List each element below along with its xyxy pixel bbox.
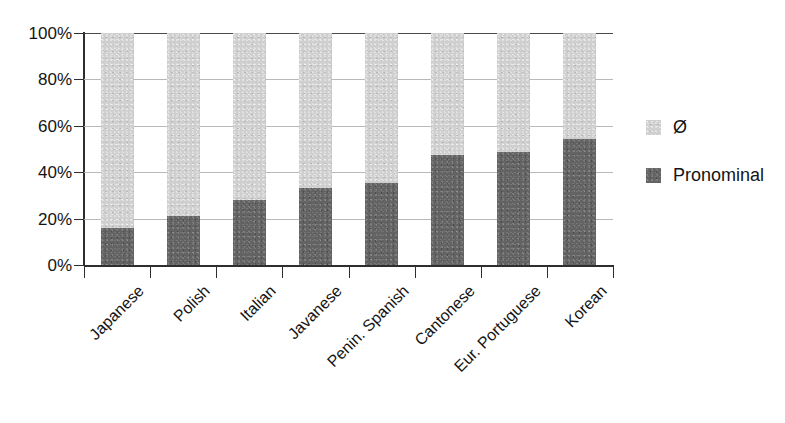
x-axis-category-label[interactable]: Korean [561,282,610,331]
bar-group[interactable] [431,33,464,265]
y-axis-tick-mark [74,79,83,80]
legend-item[interactable]: Pronominal [646,164,781,186]
bar-group[interactable] [365,33,398,265]
y-axis-tick-mark [74,126,83,127]
y-axis-tick-label: 40% [38,164,72,181]
gridline [84,126,613,127]
bar-segment-pronominal[interactable] [497,152,530,265]
stacked-bar-chart: 0%20%40%60%80%100% JapanesePolishItalian… [0,0,785,423]
bar-segment-zero[interactable] [563,33,596,139]
x-axis-category-label[interactable]: Italian [237,282,280,325]
x-axis-line [84,265,614,267]
bar-segment-pronominal[interactable] [299,188,332,265]
y-axis-tick-mark [74,265,83,266]
gridline [84,33,613,34]
plot-area [84,33,613,265]
bar-segment-zero[interactable] [431,33,464,155]
y-axis-tick-label: 0% [47,257,72,274]
legend-item[interactable]: Ø [646,116,781,138]
bar-segment-zero[interactable] [233,33,266,200]
gridline [84,79,613,80]
bar-segment-zero[interactable] [167,33,200,216]
y-axis-tick-label: 100% [29,25,72,42]
y-axis-tick-mark [74,33,83,34]
chart-legend: ØPronominal [646,116,781,212]
bar-group[interactable] [167,33,200,265]
bar-group[interactable] [101,33,134,265]
x-axis-category-label[interactable]: Polish [170,282,214,326]
bar-segment-pronominal[interactable] [101,228,134,265]
bar-segment-zero[interactable] [101,33,134,228]
y-axis-tick-label: 60% [38,117,72,134]
legend-item-label: Pronominal [673,165,764,185]
bar-segment-pronominal[interactable] [563,139,596,265]
bar-segment-zero[interactable] [365,33,398,183]
y-axis-tick-label: 80% [38,71,72,88]
legend-swatch-icon [646,168,661,183]
gridline [84,172,613,173]
y-axis-tick-labels: 0%20%40%60%80%100% [8,0,72,423]
bar-segment-pronominal[interactable] [365,183,398,265]
x-axis-category-label[interactable]: Japanese [86,282,148,344]
bar-group[interactable] [299,33,332,265]
gridlines [84,33,613,265]
x-axis-category-label[interactable]: Cantonese [411,282,478,349]
bar-group[interactable] [563,33,596,265]
gridline [84,219,613,220]
bar-segment-pronominal[interactable] [233,200,266,265]
x-axis-category-label[interactable]: Javanese [285,282,346,343]
y-axis-tick-mark [74,219,83,220]
y-axis-tick-mark [74,172,83,173]
bar-segment-pronominal[interactable] [167,216,200,265]
y-axis-tick-label: 20% [38,210,72,227]
bar-segment-zero[interactable] [497,33,530,152]
bar-group[interactable] [497,33,530,265]
bar-segment-zero[interactable] [299,33,332,188]
legend-swatch-icon [646,120,661,135]
legend-item-label: Ø [673,117,687,137]
bar-group[interactable] [233,33,266,265]
bar-segment-pronominal[interactable] [431,155,464,265]
